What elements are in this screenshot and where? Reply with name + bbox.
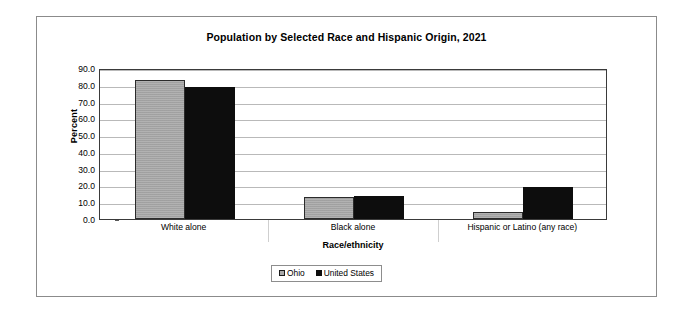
y-tick-label: 60.0 — [57, 115, 95, 124]
x-tick-label: White alone — [99, 222, 268, 232]
legend-item-ohio[interactable]: Ohio — [279, 268, 305, 278]
x-tick-label: Hispanic or Latino (any race) — [438, 222, 607, 232]
legend-swatch-icon — [316, 270, 322, 276]
y-tick-label: 20.0 — [57, 182, 95, 191]
y-axis-ticks: 90.080.070.060.050.040.030.020.010.00.0 — [57, 63, 95, 218]
x-tick-label: Black alone — [268, 222, 437, 232]
legend-item-united-states[interactable]: United States — [316, 268, 374, 278]
plot-area — [99, 69, 607, 220]
y-tick-label: 0.0 — [57, 216, 95, 225]
y-tick-label: 90.0 — [57, 65, 95, 74]
plot-area-wrapper: Percent 90.080.070.060.050.040.030.020.0… — [37, 17, 658, 298]
bar-series-container — [100, 70, 606, 219]
y-tick-label: 80.0 — [57, 81, 95, 90]
bar-ohio — [473, 212, 523, 219]
legend-swatch-icon — [279, 270, 285, 276]
chart-legend: OhioUnited States — [271, 265, 382, 282]
bar-united-states — [523, 187, 573, 219]
y-tick-label: 50.0 — [57, 132, 95, 141]
y-tick-label: 10.0 — [57, 199, 95, 208]
x-axis-tick-labels: White aloneBlack aloneHispanic or Latino… — [99, 222, 607, 240]
bar-united-states — [185, 87, 235, 219]
y-tick-label: 30.0 — [57, 165, 95, 174]
y-tick-mark — [115, 220, 119, 221]
legend-label: United States — [324, 268, 374, 278]
bar-ohio — [304, 197, 354, 219]
chart-panel: Population by Selected Race and Hispanic… — [36, 16, 657, 297]
legend-label: Ohio — [287, 268, 305, 278]
bar-united-states — [354, 196, 404, 219]
y-tick-label: 70.0 — [57, 98, 95, 107]
bar-ohio — [135, 80, 185, 219]
y-tick-label: 40.0 — [57, 149, 95, 158]
x-axis-label: Race/ethnicity — [99, 240, 607, 250]
